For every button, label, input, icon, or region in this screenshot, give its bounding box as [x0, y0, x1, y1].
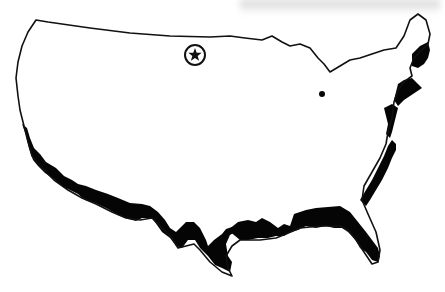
gulf-coast-band: [228, 206, 380, 262]
new-england-coast-band: [394, 78, 422, 106]
pacific-coast-band: [22, 124, 240, 272]
us-map: [0, 0, 445, 292]
star-in-circle-icon: [185, 45, 205, 65]
maine-coast-band: [412, 42, 430, 68]
coastal-highlight: [22, 42, 430, 272]
lake-erie-mark: [319, 91, 325, 97]
southeast-coast-band: [360, 140, 396, 206]
